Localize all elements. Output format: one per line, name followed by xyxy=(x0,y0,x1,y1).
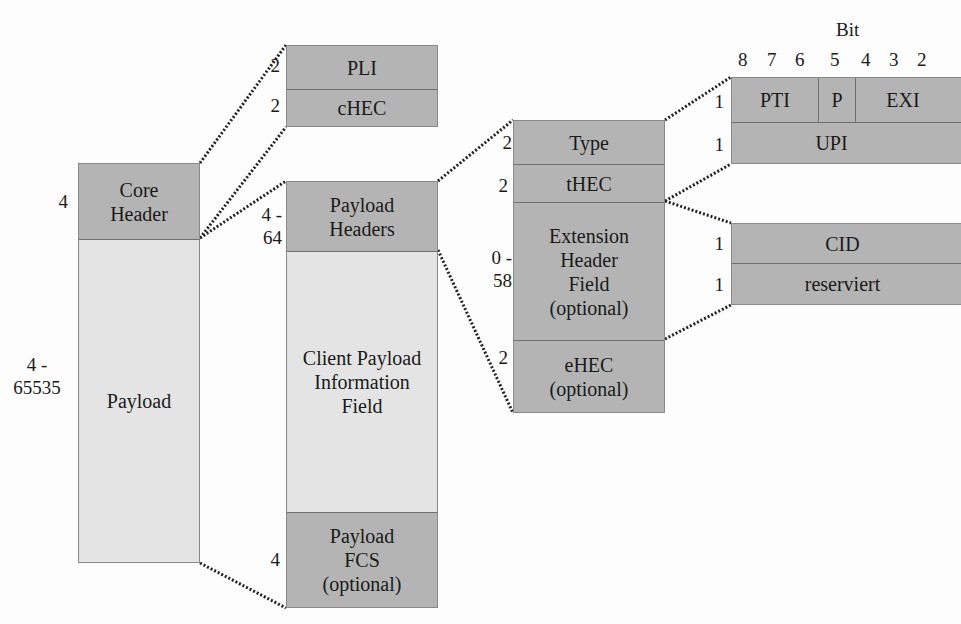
thec-size: 2 xyxy=(490,174,508,197)
upi-label: UPI xyxy=(815,131,847,155)
extension-header-label: Extension Header Field (optional) xyxy=(539,224,639,320)
upi-cell: UPI xyxy=(732,122,961,163)
core-header-detail: PLI cHEC xyxy=(286,45,438,127)
payload-cell: Payload xyxy=(79,239,199,562)
payload-detail: Payload Headers Client Payload Informati… xyxy=(286,181,438,608)
client-payload-cell: Client Payload Information Field xyxy=(287,251,437,512)
cid-cell: CID xyxy=(732,224,961,263)
bit-number: 4 xyxy=(861,49,871,71)
type-field-row-1: PTI P EXI xyxy=(732,78,961,122)
thec-cell: tHEC xyxy=(514,164,664,202)
reserviert-size: 1 xyxy=(710,273,724,296)
core-frame: Core Header Payload xyxy=(78,163,200,563)
extension-header-cell: Extension Header Field (optional) xyxy=(514,202,664,340)
payload-headers-cell: Payload Headers xyxy=(287,182,437,251)
bit-number: 8 xyxy=(738,49,748,71)
type-row2-size: 1 xyxy=(710,133,724,156)
ehec-cell: eHEC (optional) xyxy=(514,340,664,412)
type-field-table: PTI P EXI UPI xyxy=(731,77,961,164)
exi-label: EXI xyxy=(886,88,919,112)
chec-size: 2 xyxy=(262,94,280,117)
bit-title: Bit xyxy=(836,18,859,41)
payload-fcs-cell: Payload FCS (optional) xyxy=(287,512,437,607)
core-header-size: 4 xyxy=(48,190,68,213)
payload-headers-size: 4 - 64 xyxy=(252,203,282,249)
exi-cell: EXI xyxy=(856,78,950,122)
thec-label: tHEC xyxy=(566,172,612,196)
type-size: 2 xyxy=(494,131,512,154)
cid-size: 1 xyxy=(710,232,724,255)
bit-number: 7 xyxy=(767,49,777,71)
pti-label: PTI xyxy=(760,88,790,112)
payload-fcs-label: Payload FCS (optional) xyxy=(312,524,412,596)
type-label: Type xyxy=(569,131,609,155)
type-cell: Type xyxy=(514,121,664,164)
payload-label: Payload xyxy=(107,389,171,413)
cid-label: CID xyxy=(825,232,859,256)
payload-size: 4 - 65535 xyxy=(4,353,70,399)
reserviert-label: reserviert xyxy=(805,272,881,296)
pli-cell: PLI xyxy=(287,46,437,89)
payload-fcs-size: 4 xyxy=(262,548,280,571)
type-row1-size: 1 xyxy=(710,90,724,113)
bit-number: 6 xyxy=(795,49,805,71)
reserviert-cell: reserviert xyxy=(732,263,961,304)
client-payload-label: Client Payload Information Field xyxy=(302,346,422,418)
pti-cell: PTI xyxy=(732,78,818,122)
bit-number: 3 xyxy=(889,49,899,71)
pli-size: 2 xyxy=(262,54,280,77)
ehec-size: 2 xyxy=(490,346,508,369)
p-label: P xyxy=(831,88,842,112)
chec-label: cHEC xyxy=(338,96,387,120)
core-header-cell: Core Header xyxy=(79,164,199,239)
ehec-label: eHEC (optional) xyxy=(539,353,639,401)
payload-header-detail: Type tHEC Extension Header Field (option… xyxy=(513,120,665,413)
payload-headers-label: Payload Headers xyxy=(317,193,407,241)
chec-cell: cHEC xyxy=(287,89,437,126)
core-header-label: Core Header xyxy=(104,178,174,226)
extension-header-table: CID reserviert xyxy=(731,223,961,305)
extension-header-size: 0 - 58 xyxy=(472,246,512,292)
pli-label: PLI xyxy=(347,56,377,80)
bit-number: 2 xyxy=(917,49,927,71)
p-cell: P xyxy=(819,78,855,122)
bit-number: 5 xyxy=(830,49,840,71)
